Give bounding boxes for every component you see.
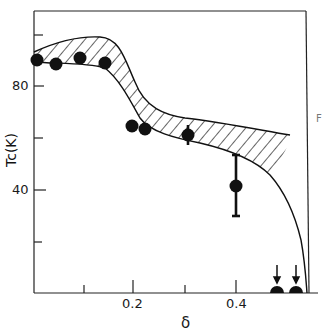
band-lower-curve <box>34 62 307 293</box>
y-tick-label-80: 80 <box>12 78 29 93</box>
x-axis-ticks <box>84 280 236 293</box>
x-tick-label-0-4: 0.4 <box>226 296 247 311</box>
x-axis-label: δ <box>181 314 190 332</box>
down-arrow-icons <box>274 265 299 283</box>
data-points <box>31 52 304 294</box>
y-axis-label: Tc(K) <box>3 133 19 167</box>
x-tick-label-0-2: 0.2 <box>122 296 143 311</box>
tc-vs-delta-chart <box>0 0 326 334</box>
hatched-band <box>34 37 290 175</box>
y-tick-label-40: 40 <box>12 182 29 197</box>
side-letter: F <box>316 113 322 124</box>
